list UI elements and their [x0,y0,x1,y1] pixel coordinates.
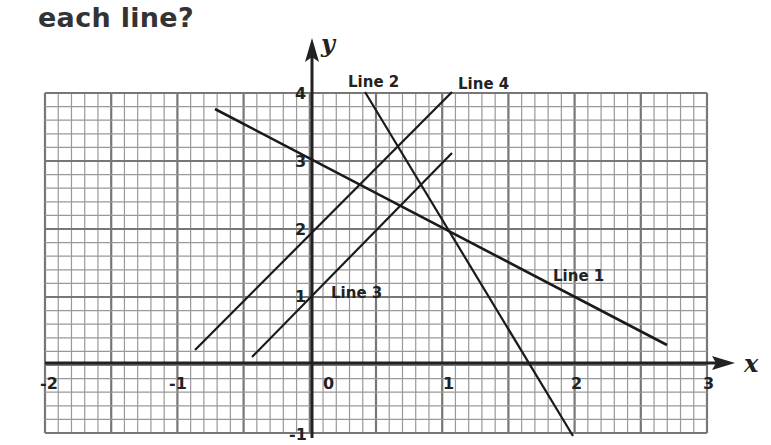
x-tick-label: 3 [703,374,714,393]
x-tick-label: 1 [443,374,454,393]
x-tick-label: -1 [169,374,187,393]
x-tick-label: -2 [40,374,58,393]
y-tick-label: 3 [295,152,306,171]
coordinate-plane: Line 2 Line 4 Line 3 Line 1 x y -2 -1 0 … [0,0,771,445]
y-tick-label: 2 [295,220,306,239]
line-4-label: Line 4 [458,75,509,93]
y-tick-label: 4 [295,84,306,103]
x-axis-label: x [743,349,759,378]
x-tick-label: 2 [571,374,582,393]
line-3-label: Line 3 [331,284,382,302]
line-2-label: Line 2 [348,73,399,91]
y-tick-label: 1 [295,287,306,306]
line-1-label: Line 1 [553,267,604,285]
y-tick-label: -1 [289,425,307,444]
y-axis-label: y [320,29,337,58]
line-3 [252,153,452,357]
grid [45,93,707,433]
x-tick-label: 0 [323,374,334,393]
